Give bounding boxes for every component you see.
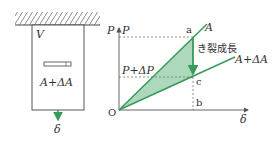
ceiling-hatch [15,12,100,25]
line-A-dA-label: A+ΔA [234,53,268,66]
volume-label: V [36,28,45,41]
area-label: A+ΔA [39,76,73,89]
specimen-figure: V A+ΔA δ [15,12,100,136]
displacement-label: δ [54,123,61,136]
y-tick-P-dP: P+ΔP [121,64,155,77]
origin-label: O [108,107,116,118]
point-b-label: b [196,97,202,108]
point-c-label: c [196,76,202,87]
crack-slot [44,62,71,66]
y-tick-P: P [121,24,130,37]
point-a-label: a [186,24,192,35]
p-delta-graph: P P P+ΔP O δ a c b A A+ΔA き裂成長 [106,21,268,126]
crack-growth-diagram: V A+ΔA δ P P P+ΔP O δ a c b A A+ΔA き裂成長 [0,0,278,143]
line-A-label: A [204,21,213,34]
crack-growth-label: き裂成長 [197,42,237,54]
x-axis-label: δ [240,113,247,126]
y-axis-label: P [106,24,115,37]
